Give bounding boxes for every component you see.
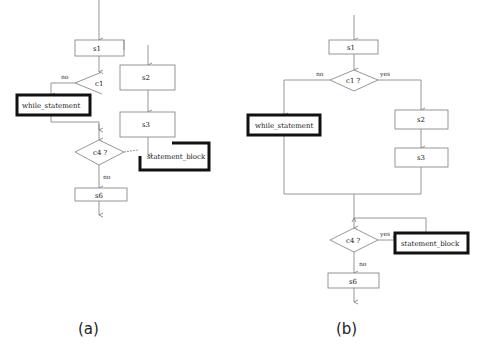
a-while-statement-label: while_statement xyxy=(22,102,80,110)
flowchart-canvas: s1 c1 no while_statement s2 s3 c4 ? stat… xyxy=(0,0,486,362)
b-c4-label: c4 ? xyxy=(346,237,361,245)
caption-a: (a) xyxy=(78,320,99,338)
a-s2-label: s2 xyxy=(142,74,150,82)
a-while-to-c4-edge xyxy=(51,115,99,140)
b-s2-label: s2 xyxy=(417,116,425,124)
diagram-a-labels: s1 c1 no while_statement s2 s3 c4 ? stat… xyxy=(22,45,206,200)
b-statement-block-label: statement_block xyxy=(401,240,460,248)
a-c4-to-block-edge xyxy=(124,150,138,152)
b-c4-no-label: no xyxy=(359,260,367,267)
b-c1-no-edge xyxy=(284,80,330,115)
b-while-statement-label: while_statement xyxy=(255,122,313,130)
a-s1-label: s1 xyxy=(93,45,101,53)
b-s3-label: s3 xyxy=(417,154,425,162)
a-c1-no-label: no xyxy=(61,73,69,80)
a-s3-label: s3 xyxy=(142,121,150,129)
a-statement-block-label: statement_block xyxy=(147,153,206,161)
a-c4-label: c4 ? xyxy=(93,149,108,157)
a-c4-no-label: no xyxy=(103,173,111,180)
a-c1-label: c1 xyxy=(95,80,103,88)
a-s6-label: s6 xyxy=(95,192,104,200)
b-c1-no-label: no xyxy=(316,70,324,77)
b-c4-yes-label: yes xyxy=(379,230,390,238)
b-c1-yes-label: yes xyxy=(379,70,390,78)
caption-b: (b) xyxy=(336,320,357,338)
a-c1-no-edge xyxy=(51,83,75,95)
b-c1-label: c1 ? xyxy=(346,77,361,85)
b-s1-label: s1 xyxy=(347,44,355,52)
b-c1-yes-edge xyxy=(378,80,421,110)
b-s6-label: s6 xyxy=(349,278,358,286)
